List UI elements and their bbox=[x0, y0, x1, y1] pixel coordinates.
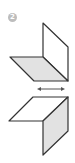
bottom-figure bbox=[9, 97, 68, 155]
fold-diagram bbox=[0, 0, 75, 163]
double-arrow-icon bbox=[37, 87, 65, 91]
top-figure bbox=[10, 23, 68, 81]
